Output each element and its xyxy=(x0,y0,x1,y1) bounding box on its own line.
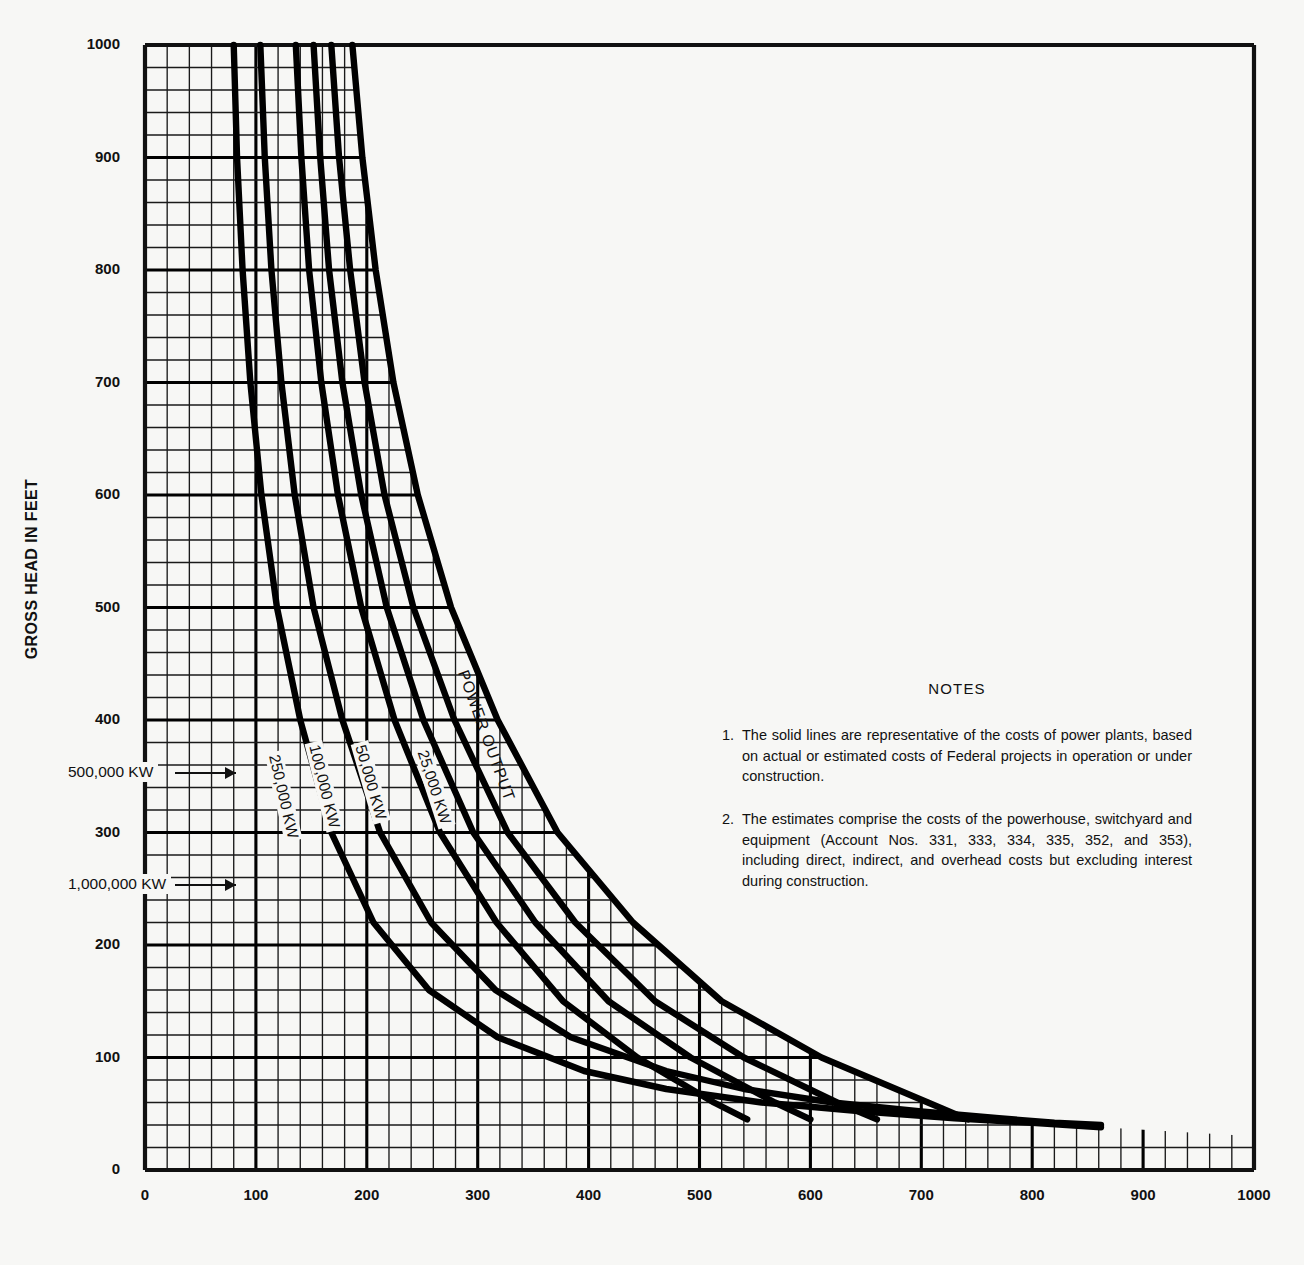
notes-block: NOTES 1. The solid lines are representat… xyxy=(722,678,1192,913)
x-axis-tick-label: 0 xyxy=(105,1186,185,1203)
chart-figure: 0100200300400500600700800900100001002003… xyxy=(0,0,1304,1265)
y-axis-tick-label: 900 xyxy=(35,148,120,165)
x-axis-tick-label: 200 xyxy=(327,1186,407,1203)
note-item-2: 2. The estimates comprise the costs of t… xyxy=(722,809,1192,891)
note-number: 2. xyxy=(722,809,742,891)
curve-label: 1,000,000 KW xyxy=(63,874,171,894)
note-text: The estimates comprise the costs of the … xyxy=(742,809,1192,891)
notes-heading: NOTES xyxy=(722,678,1192,699)
y-axis-tick-label: 0 xyxy=(35,1160,120,1177)
y-axis-tick-label: 500 xyxy=(35,598,120,615)
chart-curve-25-000-kw xyxy=(352,45,968,1119)
x-axis-tick-label: 600 xyxy=(770,1186,850,1203)
y-axis-tick-label: 400 xyxy=(35,710,120,727)
y-axis-title: GROSS HEAD IN FEET xyxy=(23,439,41,699)
y-axis-tick-label: 300 xyxy=(35,823,120,840)
x-axis-tick-label: 900 xyxy=(1103,1186,1183,1203)
y-axis-tick-label: 200 xyxy=(35,935,120,952)
note-number: 1. xyxy=(722,725,742,787)
chart-curve-1-000-000-kw xyxy=(234,45,1101,1127)
x-axis-tick-label: 100 xyxy=(216,1186,296,1203)
x-axis-tick-label: 400 xyxy=(549,1186,629,1203)
note-text: The solid lines are representative of th… xyxy=(742,725,1192,787)
y-axis-tick-label: 1000 xyxy=(35,35,120,52)
chart-curve-100-000-kw xyxy=(314,45,811,1119)
y-axis-tick-label: 100 xyxy=(35,1048,120,1065)
y-axis-tick-label: 700 xyxy=(35,373,120,390)
y-axis-tick-label: 800 xyxy=(35,260,120,277)
note-item-1: 1. The solid lines are representative of… xyxy=(722,725,1192,787)
label-leader-lines xyxy=(175,767,236,891)
chart-series-group xyxy=(234,45,1101,1127)
x-axis-tick-label: 700 xyxy=(881,1186,961,1203)
curve-label: 500,000 KW xyxy=(63,762,158,782)
x-axis-tick-label: 300 xyxy=(438,1186,518,1203)
x-axis-tick-label: 1000 xyxy=(1214,1186,1294,1203)
chart-svg xyxy=(0,0,1304,1265)
x-axis-tick-label: 500 xyxy=(660,1186,740,1203)
chart-curve-50-000-kw xyxy=(331,45,877,1119)
y-axis-tick-label: 600 xyxy=(35,485,120,502)
x-axis-tick-label: 800 xyxy=(992,1186,1072,1203)
